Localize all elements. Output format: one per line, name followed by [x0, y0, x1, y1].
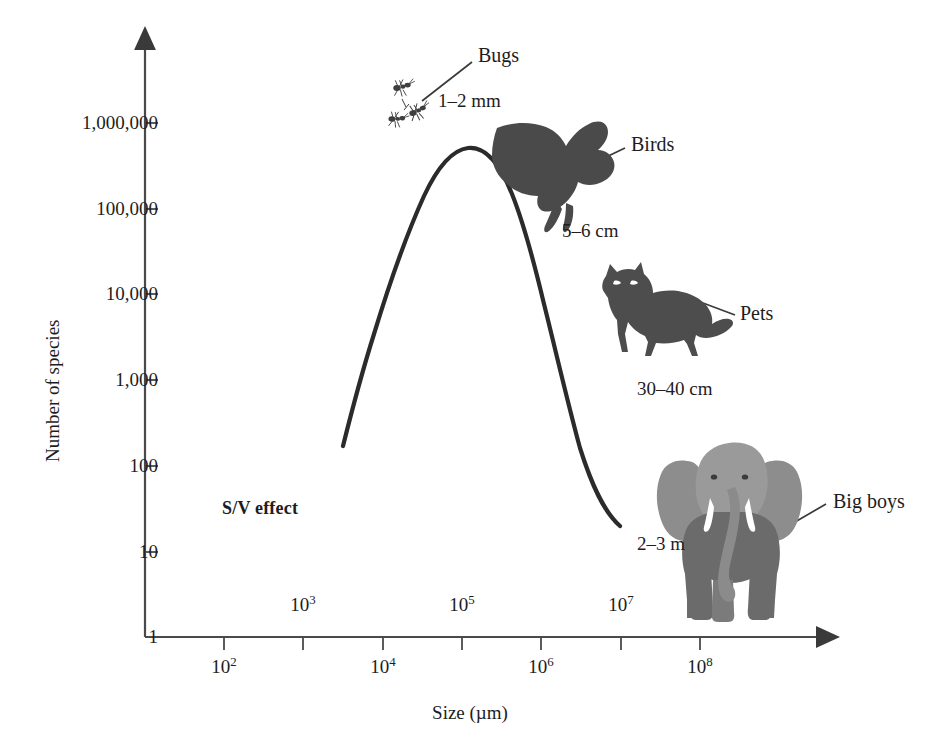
- x-tick-base: 10: [608, 594, 627, 615]
- x-axis-title: Size (µm): [432, 702, 508, 724]
- size-label-bigboys: 2–3 m: [637, 533, 685, 555]
- x-tick-base: 10: [449, 594, 468, 615]
- x-tick-base: 10: [290, 594, 309, 615]
- ants-icon: [387, 79, 432, 130]
- x-tick-label-1e2: 102: [211, 656, 236, 678]
- x-tick-base: 10: [687, 656, 706, 677]
- x-axis-ticks: [224, 637, 700, 650]
- x-tick-label-1e4: 104: [370, 656, 395, 678]
- y-tick-label-10000: 10,000: [106, 283, 158, 305]
- callout-label-birds: Birds: [631, 133, 674, 156]
- y-tick-label-1000000: 1,000,000: [82, 112, 158, 134]
- x-tick-exponent: 4: [389, 654, 395, 669]
- y-tick-label-1000: 1,000: [115, 369, 158, 391]
- x-tick-label-1e8: 108: [687, 656, 712, 678]
- x-tick-label-1e3: 103: [290, 594, 315, 616]
- callout-label-bugs: Bugs: [478, 44, 519, 67]
- callout-label-bigboys: Big boys: [833, 490, 905, 513]
- annotation-sv-effect: S/V effect: [222, 498, 298, 519]
- y-tick-label-100: 100: [130, 455, 159, 477]
- y-tick-label-10: 10: [139, 541, 158, 563]
- cat-icon: [602, 262, 733, 356]
- chart-figure: 1,000,000 100,000 10,000 1,000 100 10 1 …: [0, 0, 941, 756]
- x-tick-label-1e7: 107: [608, 594, 633, 616]
- x-tick-exponent: 2: [230, 654, 236, 669]
- x-tick-base: 10: [370, 656, 389, 677]
- callout-label-pets: Pets: [740, 302, 773, 325]
- x-tick-exponent: 6: [547, 654, 553, 669]
- x-tick-base: 10: [528, 656, 547, 677]
- x-tick-label-1e6: 106: [528, 656, 553, 678]
- x-tick-exponent: 8: [706, 654, 712, 669]
- size-label-bugs: 1–2 mm: [438, 90, 501, 112]
- bird-icon: [492, 122, 614, 233]
- x-tick-exponent: 7: [627, 592, 633, 607]
- size-label-pets: 30–40 cm: [637, 378, 712, 400]
- x-tick-exponent: 3: [309, 592, 315, 607]
- size-label-birds: 5–6 cm: [562, 220, 618, 242]
- species-distribution-curve: [343, 148, 620, 526]
- y-axis-ticks: [145, 123, 158, 552]
- y-tick-label-100000: 100,000: [96, 198, 158, 220]
- x-tick-exponent: 5: [468, 592, 474, 607]
- x-tick-label-1e5: 105: [449, 594, 474, 616]
- y-axis-title: Number of species: [42, 320, 64, 462]
- y-tick-label-1: 1: [149, 626, 159, 648]
- x-tick-base: 10: [211, 656, 230, 677]
